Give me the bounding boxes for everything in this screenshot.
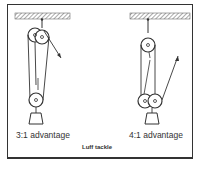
pulley-3-1 xyxy=(15,13,70,124)
lower-sheave-2 xyxy=(148,94,162,108)
load-weight-left xyxy=(29,113,43,124)
load-weight-right xyxy=(145,113,159,124)
label-3-1-advantage: 3:1 advantage xyxy=(16,130,70,140)
upper-sheave-2 xyxy=(35,30,49,44)
ceiling-right xyxy=(130,13,190,19)
label-4-1-advantage: 4:1 advantage xyxy=(129,130,183,140)
upper-sheave xyxy=(141,38,155,52)
ceiling-left xyxy=(15,13,70,19)
pulley-4-1 xyxy=(130,13,190,124)
figure-caption: Luff tackle xyxy=(82,144,112,150)
lower-sheave xyxy=(29,93,43,107)
